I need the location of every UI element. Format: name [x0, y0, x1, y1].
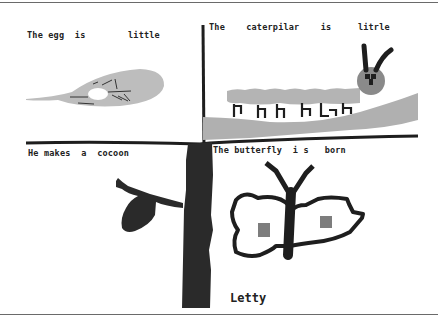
egg-icon — [88, 88, 108, 100]
egg-caption: The egg is little — [27, 30, 160, 40]
antenna-left-icon — [364, 46, 366, 70]
caterpillar-icon — [227, 46, 391, 118]
caterpillar-caption: The caterpilar is litrle — [209, 22, 390, 32]
caterpillar-legs-icon — [234, 103, 351, 118]
wing-spot-right-icon — [320, 216, 332, 228]
butterfly-antenna-left-icon — [266, 163, 289, 193]
cocoon-caption: He makes a cocoon — [28, 148, 129, 158]
butterfly-icon — [232, 163, 363, 256]
leaf-icon — [26, 69, 164, 106]
butterfly-caption: The butterfly i s born — [213, 145, 346, 155]
butterfly-antenna-right-icon — [293, 166, 313, 193]
wing-spot-left-icon — [258, 223, 270, 237]
antenna-right-icon — [376, 50, 391, 70]
tree-trunk-icon — [182, 142, 213, 308]
cocoon-icon — [116, 178, 183, 232]
butterfly-body-icon — [288, 192, 291, 255]
artist-signature: Letty — [230, 291, 266, 305]
drawing-canvas — [0, 0, 438, 331]
